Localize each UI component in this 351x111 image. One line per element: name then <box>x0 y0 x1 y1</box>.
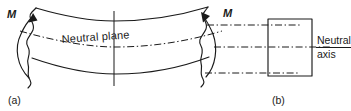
neutral-axis-label-line2: axis <box>317 48 336 60</box>
caption-b: (b) <box>272 94 285 106</box>
beam-bottom-edge <box>32 57 209 74</box>
neutral-axis-label-line1: Neutral <box>317 34 351 46</box>
moment-arrow-left-group: M <box>7 8 38 78</box>
moment-arrow-right-group: M <box>201 7 233 77</box>
beam-body <box>20 7 222 88</box>
beam-bending-diagram: M M Neutral plane Neutral axis (a) (b) <box>0 0 351 111</box>
figure-container: M M Neutral plane Neutral axis (a) (b) <box>0 0 351 111</box>
caption-a: (a) <box>8 94 21 106</box>
neutral-axis-callout: Neutral axis <box>316 34 351 60</box>
moment-label-right: M <box>223 7 233 19</box>
moment-arrow-left <box>17 16 33 78</box>
neutral-plane-label: Neutral plane <box>61 28 130 45</box>
moment-label-left: M <box>7 8 17 20</box>
beam-top-edge <box>36 7 208 21</box>
